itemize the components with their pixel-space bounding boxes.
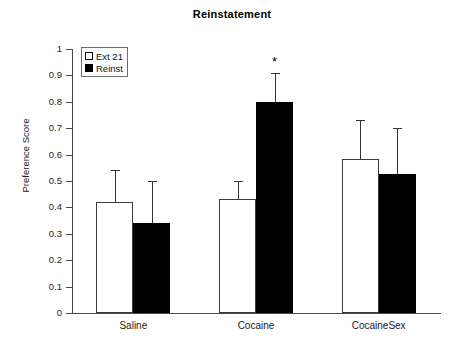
y-axis-tick-label: 0.5 [30, 175, 62, 186]
y-axis-tick-mark [66, 234, 72, 235]
error-bar-stem [360, 120, 361, 158]
error-bar-cap [148, 181, 157, 182]
chart-figure: Reinstatement Preference Score 00.10.20.… [0, 0, 464, 351]
x-axis-tick-label-cocaine: Cocaine [196, 320, 316, 331]
x-axis-tick-label-saline: Saline [73, 320, 193, 331]
error-bar-stem [152, 181, 153, 223]
error-bar-stem [115, 170, 116, 202]
error-bar-cap [393, 128, 402, 129]
legend-swatch-open-square-icon [85, 52, 93, 60]
y-axis-tick-mark [66, 102, 72, 103]
y-axis-tick-mark [66, 207, 72, 208]
error-bar-stem [238, 181, 239, 199]
legend-item-ext21: Ext 21 [85, 50, 123, 62]
chart-legend: Ext 21 Reinst [81, 47, 128, 77]
y-axis-title: Preference Score [20, 86, 31, 226]
bar-cocaine-ext-21 [219, 199, 256, 313]
error-bar-stem [397, 128, 398, 174]
y-axis-tick-mark [66, 181, 72, 182]
legend-label: Reinst [96, 63, 123, 74]
error-bar-stem [275, 73, 276, 102]
y-axis-tick-label: 0.4 [30, 201, 62, 212]
y-axis-tick-mark [66, 155, 72, 156]
y-axis-tick-mark [66, 128, 72, 129]
y-axis-tick-mark [66, 75, 72, 76]
y-axis-tick-label: 0.8 [30, 96, 62, 107]
y-axis-tick-label: 0.9 [30, 69, 62, 80]
error-bar-cap [271, 73, 280, 74]
y-axis-tick-mark [66, 287, 72, 288]
y-axis-tick-mark [66, 260, 72, 261]
error-bar-cap [356, 120, 365, 121]
x-axis-tick-label-cocainesex: CocaineSex [319, 320, 439, 331]
y-axis-tick-mark [66, 313, 72, 314]
y-axis-tick-label: 0.2 [30, 254, 62, 265]
y-axis-tick-label: 1 [30, 43, 62, 54]
y-axis-tick-label: 0.7 [30, 122, 62, 133]
y-axis-tick-label: 0 [30, 307, 62, 318]
significance-asterisk: * [255, 57, 295, 67]
bar-cocainesex-ext-21 [342, 159, 379, 313]
error-bar-cap [111, 170, 120, 171]
bar-saline-ext-21 [96, 202, 133, 313]
y-axis-tick-label: 0.1 [30, 281, 62, 292]
error-bar-cap [234, 181, 243, 182]
y-axis-tick-label: 0.3 [30, 228, 62, 239]
bar-cocaine-reinst [256, 102, 293, 313]
y-axis-tick-label: 0.6 [30, 149, 62, 160]
bar-cocainesex-reinst [379, 174, 416, 313]
legend-swatch-filled-square-icon [85, 64, 93, 72]
y-axis-line [72, 49, 73, 314]
legend-label: Ext 21 [96, 51, 123, 62]
y-axis-tick-mark [66, 49, 72, 50]
x-axis-line [72, 313, 441, 314]
legend-item-reinst: Reinst [85, 62, 123, 74]
chart-title: Reinstatement [0, 8, 464, 20]
bar-saline-reinst [133, 223, 170, 313]
